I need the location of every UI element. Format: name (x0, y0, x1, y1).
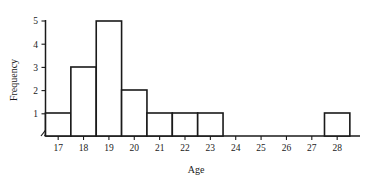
x-tick-label-18: 18 (79, 143, 89, 153)
x-tick-label-19: 19 (104, 143, 114, 153)
x-tick-label-21: 21 (155, 143, 165, 153)
y-tick-label-4: 4 (33, 40, 38, 50)
x-tick-label-27: 27 (307, 143, 317, 153)
x-tick-label-26: 26 (282, 143, 292, 153)
histogram-bar (96, 21, 121, 136)
histogram-bar (71, 67, 96, 136)
x-tick-label-24: 24 (231, 143, 241, 153)
x-tick-label-20: 20 (130, 143, 140, 153)
histogram-bar (172, 113, 197, 136)
x-axis-ticks: 171819202122232425262728 (53, 136, 342, 153)
histogram-bars (46, 21, 350, 136)
x-tick-label-23: 23 (206, 143, 216, 153)
y-tick-label-1: 1 (33, 109, 38, 119)
x-axis-title: Age (188, 164, 205, 175)
histogram-bar (147, 113, 172, 136)
y-tick-label-3: 3 (33, 63, 38, 73)
histogram-figure: Frequency 1 2 3 4 5 17181920212223242526… (0, 0, 374, 184)
y-tick-label-2: 2 (33, 86, 38, 96)
x-tick-label-28: 28 (332, 143, 342, 153)
x-tick-label-22: 22 (180, 143, 190, 153)
y-tick-label-5: 5 (33, 16, 38, 26)
y-axis-ticks: 1 2 3 4 5 (33, 16, 45, 119)
y-axis-title: Frequency (8, 59, 19, 101)
histogram-bar (324, 113, 349, 136)
histogram-bar (122, 90, 147, 136)
x-tick-label-25: 25 (256, 143, 266, 153)
histogram-bar (198, 113, 223, 136)
histogram-plot: Frequency 1 2 3 4 5 17181920212223242526… (0, 0, 374, 184)
histogram-bar (46, 113, 71, 136)
x-tick-label-17: 17 (53, 143, 63, 153)
